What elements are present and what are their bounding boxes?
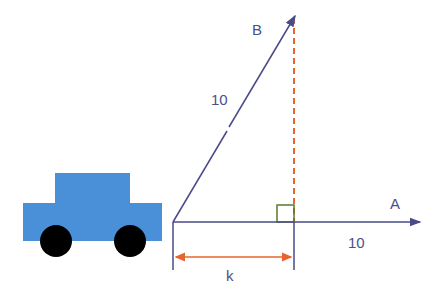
car-wheel-rear — [114, 225, 146, 257]
vector-a-label: A — [390, 196, 400, 211]
vector-b-lower — [173, 131, 227, 222]
projection-label: k — [226, 268, 234, 283]
car-cabin — [55, 173, 130, 204]
vector-b-label: B — [252, 22, 262, 37]
vector-b-magnitude: 10 — [211, 92, 228, 107]
car-wheel-front — [40, 225, 72, 257]
vector-a-magnitude: 10 — [348, 235, 365, 250]
right-angle-marker — [277, 205, 294, 222]
car-icon — [23, 173, 162, 257]
diagram-canvas — [0, 0, 441, 300]
